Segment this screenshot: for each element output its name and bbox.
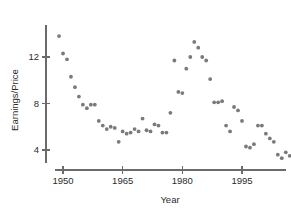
data-point <box>153 123 157 127</box>
data-point <box>77 95 81 99</box>
data-point <box>109 125 113 129</box>
data-point <box>204 59 208 63</box>
data-point <box>264 132 268 136</box>
data-point <box>121 130 125 134</box>
data-point <box>169 111 173 115</box>
data-point <box>113 126 117 130</box>
data-point <box>137 130 141 134</box>
x-axis: 1950196519801995 <box>52 166 286 186</box>
x-tick-label: 1980 <box>172 175 193 186</box>
data-point <box>276 153 280 157</box>
data-point <box>180 91 184 95</box>
data-point <box>268 136 272 140</box>
y-tick-label: 12 <box>28 51 39 62</box>
data-point <box>157 124 161 128</box>
data-point <box>200 55 204 59</box>
data-point <box>65 57 69 61</box>
data-point <box>224 124 228 128</box>
data-point <box>57 34 61 38</box>
data-point <box>61 52 65 56</box>
data-point <box>117 140 121 144</box>
data-point <box>141 117 145 121</box>
data-point <box>161 131 165 135</box>
data-point <box>208 77 212 81</box>
data-point <box>236 109 240 113</box>
data-point <box>232 105 236 109</box>
data-point <box>216 100 220 104</box>
data-point <box>240 119 244 123</box>
scatter-plot-figure: 4812 1950196519801995 Earnings/Price Yea… <box>0 0 291 213</box>
data-point <box>93 103 97 107</box>
y-axis: 4812 <box>28 25 50 163</box>
x-tick-label: 1995 <box>231 175 252 186</box>
data-point <box>280 156 284 160</box>
x-tick-label: 1950 <box>52 175 73 186</box>
data-point <box>220 99 224 103</box>
data-point <box>256 124 260 128</box>
data-point <box>176 90 180 94</box>
data-point <box>149 130 153 134</box>
data-point <box>133 127 137 131</box>
data-point <box>101 124 105 128</box>
data-point <box>244 145 248 149</box>
data-point <box>85 106 89 110</box>
data-point <box>105 127 109 131</box>
data-point <box>288 154 291 158</box>
data-point <box>196 46 200 50</box>
data-points-layer <box>57 34 291 163</box>
data-point <box>260 124 264 128</box>
data-point <box>192 40 196 44</box>
data-point <box>129 131 133 135</box>
y-axis-title: Earnings/Price <box>9 69 20 131</box>
x-axis-title: Year <box>160 194 179 205</box>
data-point <box>89 103 93 107</box>
y-tick-label: 8 <box>34 98 39 109</box>
plot-canvas: 4812 1950196519801995 Earnings/Price Yea… <box>0 0 291 213</box>
data-point <box>272 140 276 144</box>
data-point <box>172 59 176 63</box>
data-point <box>188 55 192 59</box>
data-point <box>73 85 77 89</box>
data-point <box>125 132 129 136</box>
data-point <box>248 146 252 150</box>
y-tick-label: 4 <box>34 144 39 155</box>
data-point <box>212 100 216 104</box>
data-point <box>97 119 101 123</box>
data-point <box>228 130 232 134</box>
data-point <box>165 131 169 135</box>
data-point <box>145 128 149 132</box>
data-point <box>284 150 288 154</box>
x-tick-label: 1965 <box>112 175 133 186</box>
data-point <box>252 142 256 146</box>
data-point <box>184 67 188 71</box>
data-point <box>69 75 73 79</box>
data-point <box>81 103 85 107</box>
